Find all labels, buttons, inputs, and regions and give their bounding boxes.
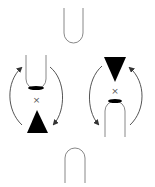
diagram-canvas: × × <box>0 0 155 187</box>
left-group: × <box>10 55 63 133</box>
left-probe-contact-lens <box>28 86 44 90</box>
right-arrow-right-icon <box>130 68 142 125</box>
left-triangle-tip <box>27 110 48 133</box>
right-probe-contact-lens <box>108 99 122 103</box>
left-u-probe <box>26 55 46 89</box>
right-arrow-left-icon <box>89 66 102 124</box>
right-group: × <box>89 57 142 137</box>
left-arrow-ccw-icon <box>10 68 22 125</box>
right-arch-probe <box>105 101 125 137</box>
left-arrow-cw-icon <box>50 67 63 124</box>
left-center-mark: × <box>33 95 41 105</box>
bottom-arch-probe <box>65 148 85 183</box>
right-center-mark: × <box>111 86 119 96</box>
right-triangle-tip <box>104 57 126 82</box>
top-u-probe <box>64 8 83 43</box>
